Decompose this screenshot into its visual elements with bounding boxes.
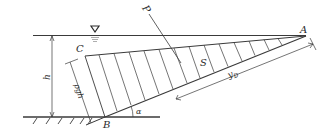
hydrostatic-pressure-diagram: A B C P S h ρgh α yD	[0, 0, 336, 133]
label-a: A	[299, 24, 307, 35]
label-rhogh: ρgh	[72, 82, 85, 100]
label-s: S	[200, 57, 207, 68]
label-p: P	[140, 2, 154, 15]
label-yd: yD	[225, 67, 239, 81]
pressure-edge-ca	[85, 36, 306, 56]
label-alpha: α	[136, 107, 142, 116]
ground-hatch-icon	[33, 118, 92, 124]
pressure-arrows	[99, 39, 282, 112]
angle-arc	[131, 106, 133, 117]
label-c: C	[76, 43, 84, 54]
label-b: B	[102, 119, 110, 130]
water-surface-triangle-icon	[91, 26, 99, 42]
resultant-force-line	[149, 14, 181, 63]
label-h: h	[42, 74, 52, 80]
